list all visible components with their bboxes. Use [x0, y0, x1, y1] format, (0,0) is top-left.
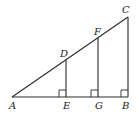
right-angle-mark-e: [59, 90, 66, 97]
right-angle-mark-g: [91, 90, 98, 97]
label-g: G: [95, 100, 103, 111]
label-e: E: [62, 100, 71, 111]
segment-ac: [12, 17, 128, 97]
right-angle-mark-b: [121, 90, 128, 97]
label-a: A: [8, 100, 16, 111]
label-f: F: [93, 26, 102, 37]
label-d: D: [59, 48, 68, 59]
label-b: B: [121, 100, 129, 111]
geometry-diagram: A E G B D F C: [0, 0, 139, 115]
label-c: C: [122, 4, 130, 15]
